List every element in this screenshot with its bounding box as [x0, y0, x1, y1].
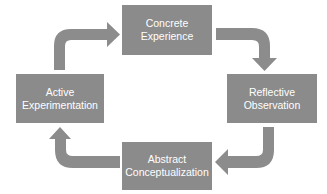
arrow-reflective-to-abstract-icon: [215, 127, 274, 175]
node-label-line2: Conceptualization: [125, 166, 208, 179]
node-label-line1: Active: [46, 86, 75, 99]
node-label-line2: Experience: [141, 30, 194, 43]
arrow-active-to-concrete-icon: [54, 22, 120, 70]
node-abstract-conceptualization: Abstract Conceptualization: [122, 142, 212, 190]
learning-cycle-diagram: Concrete Experience Reflective Observati…: [0, 0, 327, 194]
node-label-line1: Reflective: [249, 86, 295, 99]
node-label-line1: Concrete: [146, 17, 189, 30]
node-label-line1: Abstract: [148, 153, 187, 166]
node-reflective-observation: Reflective Observation: [227, 74, 317, 123]
arrow-concrete-to-reflective-icon: [216, 28, 277, 71]
node-label-line2: Experimentation: [22, 99, 98, 112]
node-active-experimentation: Active Experimentation: [16, 74, 104, 123]
arrow-abstract-to-active-icon: [49, 127, 120, 168]
node-label-line2: Observation: [244, 99, 301, 112]
node-concrete-experience: Concrete Experience: [122, 5, 212, 55]
